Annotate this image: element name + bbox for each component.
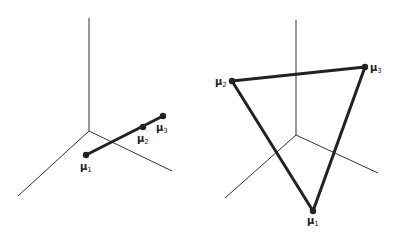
- left-point-mu2: [140, 124, 146, 130]
- right-point-mu1: [310, 208, 316, 214]
- right-label-mu1: μ1: [307, 215, 319, 228]
- left-point-mu1: [83, 152, 89, 158]
- right-label-mu3: μ3: [370, 62, 382, 75]
- figure: μ1 μ2 μ3 μ1 μ2 μ3: [0, 0, 395, 235]
- left-axis-left: [18, 131, 89, 196]
- right-point-mu3: [362, 64, 368, 70]
- right-point-mu2: [229, 78, 235, 84]
- left-label-mu2: μ2: [137, 133, 149, 146]
- left-panel: μ1 μ2 μ3: [18, 18, 172, 196]
- left-label-mu1: μ1: [80, 161, 92, 174]
- left-axis-right: [89, 131, 172, 171]
- right-label-mu2: μ2: [215, 76, 227, 89]
- left-label-mu3: μ3: [156, 122, 168, 135]
- left-point-mu3: [160, 113, 166, 119]
- right-triangle: [232, 67, 365, 211]
- right-panel: μ1 μ2 μ3: [215, 20, 382, 228]
